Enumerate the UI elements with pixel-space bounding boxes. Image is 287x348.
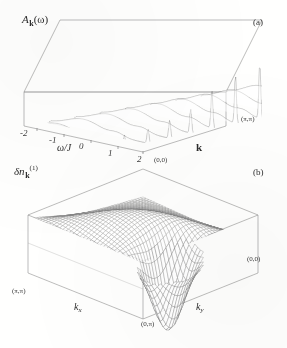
panel-b-letter: (b) — [253, 168, 264, 177]
panel-a-xtick-1: -1 — [49, 136, 57, 145]
panel-b-x-axis-name: kx — [74, 302, 82, 314]
panel-a-y-axis-name: k — [196, 142, 202, 153]
panel-a: Ak(ω) (a) -2 -1 0 1 2 ω/J k (0,0) (π,π) — [0, 0, 287, 172]
panel-a-corner-pipi: (π,π) — [241, 116, 254, 123]
panel-a-xtick-2: 0 — [79, 142, 84, 151]
panel-b-z-axis-label: δnk(1) — [14, 165, 38, 180]
panel-a-letter: (a) — [253, 18, 263, 27]
panel-a-surface-mesh — [24, 52, 287, 152]
panel-a-xtick-0: -2 — [20, 129, 28, 138]
panel-b-y-axis-name: ky — [196, 302, 204, 314]
figure-container: Ak(ω) (a) -2 -1 0 1 2 ω/J k (0,0) (π,π) — [0, 0, 287, 348]
panel-a-x-axis-name: ω/J — [57, 143, 71, 153]
panel-b-corner-00: (0,0) — [247, 256, 260, 263]
panel-b-corner-pipi: (π,π) — [12, 288, 25, 295]
panel-b-corner-0pi: (0,π) — [141, 321, 154, 328]
panel-b: δnk(1) (b) (π,π) (0,π) (0,0) kx ky — [0, 155, 287, 348]
panel-a-z-axis-label: Ak(ω) — [22, 14, 48, 28]
